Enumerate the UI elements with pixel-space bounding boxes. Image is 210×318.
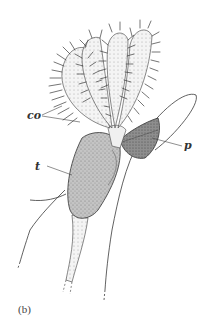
leader-t: [47, 166, 72, 175]
label-t: t: [35, 161, 40, 172]
leader-co-2: [42, 116, 80, 122]
label-co: co: [27, 110, 41, 121]
figure-caption: (b): [18, 304, 31, 315]
stalk: [63, 215, 88, 294]
label-p: p: [184, 140, 192, 151]
specimen-illustration: [0, 0, 210, 318]
